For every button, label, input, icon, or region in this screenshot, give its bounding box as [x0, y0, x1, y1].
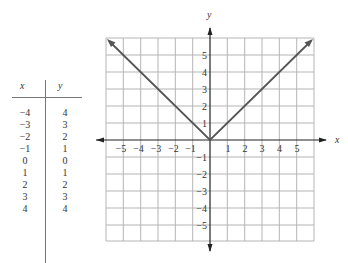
svg-text:5: 5	[295, 143, 300, 154]
svg-text:−3: −3	[196, 186, 207, 197]
svg-text:3: 3	[202, 84, 207, 95]
y-axis-down-arrow-icon	[208, 244, 213, 252]
svg-text:−4: −4	[133, 143, 144, 154]
x-axis-right-arrow-icon	[319, 138, 327, 143]
svg-text:−1: −1	[196, 152, 207, 163]
x-tick-labels: −5 −4 −3 −2 −1 1 2 3 4 5	[116, 143, 300, 154]
svg-text:3: 3	[260, 143, 265, 154]
svg-text:2: 2	[202, 101, 207, 112]
svg-text:−1: −1	[185, 143, 196, 154]
x-axis-left-arrow-icon	[96, 138, 104, 143]
svg-text:−2: −2	[196, 169, 207, 180]
svg-text:−4: −4	[196, 203, 207, 214]
x-axis-label: x	[334, 134, 340, 145]
svg-text:5: 5	[202, 50, 207, 61]
svg-text:2: 2	[243, 143, 248, 154]
svg-text:4: 4	[277, 143, 282, 154]
svg-text:−5: −5	[196, 220, 207, 231]
svg-text:−5: −5	[116, 143, 127, 154]
svg-text:−2: −2	[168, 143, 179, 154]
svg-text:1: 1	[202, 118, 207, 129]
svg-text:1: 1	[226, 143, 231, 154]
y-axis-up-arrow-icon	[208, 27, 213, 35]
svg-text:4: 4	[202, 67, 207, 78]
svg-text:−3: −3	[151, 143, 162, 154]
y-axis-label: y	[206, 9, 212, 20]
